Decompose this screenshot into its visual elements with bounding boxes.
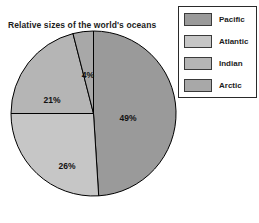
pie-svg: 49%26%21%4%: [10, 30, 177, 197]
chart-title: Relative sizes of the world's oceans: [8, 20, 156, 30]
legend-item-arctic[interactable]: Arctic: [184, 77, 254, 94]
pie-slices: [11, 31, 176, 196]
legend: Pacific Atlantic Indian Arctic: [178, 6, 257, 98]
legend-swatch-indian: [184, 57, 212, 70]
pie-slice-atlantic[interactable]: [11, 114, 99, 197]
pie-chart: 49%26%21%4%: [10, 30, 177, 197]
chart-root: Relative sizes of the world's oceans 49%…: [0, 0, 259, 223]
slice-value-label-indian: 21%: [43, 95, 60, 105]
legend-swatch-pacific: [184, 13, 212, 26]
legend-label-arctic: Arctic: [219, 81, 242, 90]
slice-value-label-pacific: 49%: [119, 113, 136, 123]
legend-item-pacific[interactable]: Pacific: [184, 11, 254, 28]
legend-label-indian: Indian: [219, 59, 243, 68]
slice-value-label-arctic: 4%: [82, 70, 95, 80]
legend-label-pacific: Pacific: [219, 15, 245, 24]
slice-value-label-atlantic: 26%: [58, 161, 75, 171]
legend-label-atlantic: Atlantic: [219, 37, 248, 46]
legend-swatch-arctic: [184, 79, 212, 92]
legend-item-atlantic[interactable]: Atlantic: [184, 33, 254, 50]
legend-item-indian[interactable]: Indian: [184, 55, 254, 72]
legend-swatch-atlantic: [184, 35, 212, 48]
